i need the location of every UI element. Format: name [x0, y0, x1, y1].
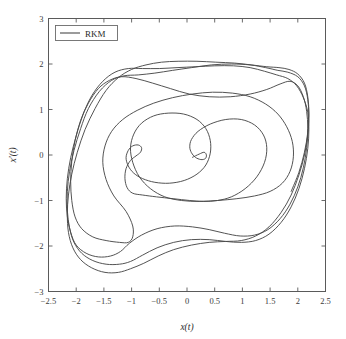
x-tick-label: −0.5 [152, 296, 167, 306]
x-tick-label: −2.5 [41, 296, 56, 306]
y-tick-label: 0 [39, 150, 43, 160]
y-axis-tick-labels: −3−2−10123 [34, 14, 43, 297]
data-series-rkm [66, 61, 309, 273]
legend-label-rkm: RKM [85, 29, 106, 39]
x-axis-label: x(t) [179, 322, 193, 333]
y-axis-ticks [49, 19, 326, 292]
x-tick-label: 1.5 [265, 296, 276, 306]
x-tick-label: 0.5 [209, 296, 220, 306]
x-tick-label: −2 [72, 296, 81, 306]
x-tick-label: 0 [185, 296, 189, 306]
phase-portrait-chart: −2.5−2−1.5−1−0.500.511.522.5 −3−2−10123 … [0, 0, 346, 339]
y-tick-label: 2 [39, 59, 43, 69]
plot-frame [49, 19, 326, 292]
figure-container: −2.5−2−1.5−1−0.500.511.522.5 −3−2−10123 … [0, 0, 346, 339]
x-axis-ticks [49, 19, 326, 292]
x-tick-label: 1 [240, 296, 244, 306]
y-tick-label: 3 [39, 14, 43, 24]
y-tick-label: −3 [34, 287, 43, 297]
x-tick-label: −1 [127, 296, 136, 306]
x-tick-label: −1.5 [96, 296, 111, 306]
y-tick-label: −2 [34, 241, 43, 251]
x-tick-label: 2.5 [320, 296, 331, 306]
legend: RKM [56, 26, 118, 41]
y-tick-label: −1 [34, 196, 43, 206]
x-tick-label: 2 [296, 296, 300, 306]
x-axis-tick-labels: −2.5−2−1.5−1−0.500.511.522.5 [41, 296, 331, 306]
y-tick-label: 1 [39, 105, 43, 115]
y-axis-label: x'(t) [8, 147, 19, 163]
